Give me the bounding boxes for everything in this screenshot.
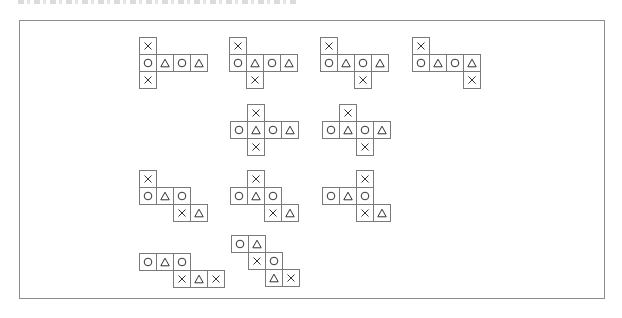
net-face: [354, 71, 372, 89]
triangle-icon: [433, 58, 443, 68]
cross-icon: [360, 208, 370, 218]
circle-icon: [143, 191, 153, 201]
circle-icon: [234, 125, 244, 135]
net-face: [230, 187, 248, 205]
net-face: [190, 54, 208, 72]
cross-icon: [251, 142, 261, 152]
net-face: [356, 204, 374, 222]
net-face: [248, 235, 266, 253]
circle-icon: [235, 239, 245, 249]
triangle-icon: [377, 125, 387, 135]
triangle-icon: [284, 58, 294, 68]
net-face: [230, 121, 248, 139]
circle-icon: [358, 58, 368, 68]
triangle-icon: [252, 239, 262, 249]
triangle-icon: [250, 58, 260, 68]
net-face: [156, 253, 174, 271]
triangle-icon: [194, 208, 204, 218]
circle-icon: [326, 125, 336, 135]
net-face: [463, 71, 481, 89]
cross-icon: [177, 208, 187, 218]
cross-icon: [416, 41, 426, 51]
cross-icon: [251, 174, 261, 184]
net-face: [246, 71, 264, 89]
net-face: [173, 204, 191, 222]
net-face: [320, 37, 338, 55]
circle-icon: [268, 191, 278, 201]
net-face: [264, 121, 282, 139]
cross-icon: [467, 75, 477, 85]
circle-icon: [233, 58, 243, 68]
net-face: [139, 54, 157, 72]
circle-icon: [324, 58, 334, 68]
circle-icon: [268, 125, 278, 135]
net-face: [190, 270, 208, 288]
cross-icon: [177, 274, 187, 284]
net-face: [263, 54, 281, 72]
net-face: [320, 54, 338, 72]
circle-icon: [177, 191, 187, 201]
circle-icon: [360, 125, 370, 135]
triangle-icon: [285, 208, 295, 218]
circle-icon: [177, 257, 187, 267]
triangle-icon: [194, 58, 204, 68]
triangle-icon: [160, 58, 170, 68]
net-face: [373, 204, 391, 222]
net-face: [248, 252, 266, 270]
triangle-icon: [467, 58, 477, 68]
triangle-icon: [251, 125, 261, 135]
triangle-icon: [285, 125, 295, 135]
net-face: [281, 204, 299, 222]
net-face: [463, 54, 481, 72]
net-face: [356, 121, 374, 139]
circle-icon: [416, 58, 426, 68]
net-face: [231, 235, 249, 253]
net-face: [371, 54, 389, 72]
triangle-icon: [160, 191, 170, 201]
net-face: [264, 187, 282, 205]
cross-icon: [251, 108, 261, 118]
net-face: [356, 170, 374, 188]
net-face: [322, 187, 340, 205]
net-face: [139, 170, 157, 188]
net-face: [247, 104, 265, 122]
cross-icon: [360, 174, 370, 184]
net-face: [247, 138, 265, 156]
net-face: [356, 187, 374, 205]
triangle-icon: [160, 257, 170, 267]
triangle-icon: [377, 208, 387, 218]
net-face: [265, 269, 283, 287]
net-face: [337, 54, 355, 72]
net-face: [282, 269, 300, 287]
net-face: [412, 37, 430, 55]
net-face: [339, 187, 357, 205]
circle-icon: [450, 58, 460, 68]
net-face: [173, 54, 191, 72]
net-face: [229, 54, 247, 72]
net-face: [280, 54, 298, 72]
net-face: [429, 54, 447, 72]
triangle-icon: [343, 191, 353, 201]
cross-icon: [143, 75, 153, 85]
net-face: [173, 187, 191, 205]
triangle-icon: [375, 58, 385, 68]
net-face: [339, 121, 357, 139]
net-face: [156, 187, 174, 205]
net-face: [173, 253, 191, 271]
triangle-icon: [194, 274, 204, 284]
cross-icon: [358, 75, 368, 85]
figure-frame: [19, 20, 605, 299]
net-face: [139, 37, 157, 55]
net-face: [247, 170, 265, 188]
cross-icon: [143, 41, 153, 51]
circle-icon: [360, 191, 370, 201]
cross-icon: [250, 75, 260, 85]
net-face: [264, 204, 282, 222]
cross-icon: [252, 256, 262, 266]
cross-icon: [268, 208, 278, 218]
cross-icon: [324, 41, 334, 51]
net-face: [446, 54, 464, 72]
cropped-text-line: [18, 0, 298, 4]
triangle-icon: [341, 58, 351, 68]
circle-icon: [177, 58, 187, 68]
